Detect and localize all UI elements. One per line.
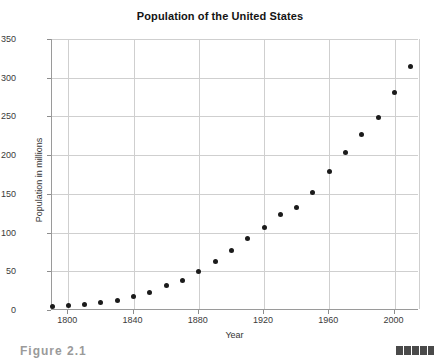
x-tick-mark-1960 (328, 310, 329, 314)
gridline-x-1800 (68, 39, 69, 309)
x-tick-mark-1880 (198, 310, 199, 314)
plot-area (51, 39, 418, 310)
y-tick-mark-350 (47, 39, 51, 40)
data-point (327, 169, 332, 174)
data-point (278, 212, 283, 217)
y-tick-label-200: 200 (1, 151, 16, 160)
data-point (294, 205, 299, 210)
gridline-y-50 (52, 271, 418, 272)
data-point (392, 90, 397, 95)
plot-top-edge (52, 39, 418, 40)
y-tick-mark-50 (47, 271, 51, 272)
gridline-y-300 (52, 78, 418, 79)
gridline-y-200 (52, 155, 418, 156)
y-tick-label-0: 0 (11, 306, 16, 315)
x-tick-mark-1840 (133, 310, 134, 314)
plot-right-edge (419, 39, 420, 309)
population-chart-figure: Population of the United States 05010015… (0, 0, 440, 360)
y-tick-mark-0 (47, 310, 51, 311)
gridline-x-1840 (134, 39, 135, 309)
data-point (229, 248, 234, 253)
y-tick-label-150: 150 (1, 189, 16, 198)
data-point (66, 303, 71, 308)
gridline-x-2000 (395, 39, 396, 309)
x-tick-label-1840: 1840 (123, 316, 143, 325)
x-tick-label-1880: 1880 (188, 316, 208, 325)
x-tick-mark-2000 (394, 310, 395, 314)
data-point (131, 294, 136, 299)
y-tick-label-100: 100 (1, 228, 16, 237)
x-tick-label-1960: 1960 (318, 316, 338, 325)
data-point (196, 269, 201, 274)
data-point (147, 290, 152, 295)
gridline-y-250 (52, 116, 418, 117)
y-tick-mark-300 (47, 78, 51, 79)
data-point (98, 300, 103, 305)
figure-caption: Figure 2.1 (20, 344, 87, 358)
y-axis-title: Population in millions (34, 95, 44, 265)
x-axis-title: Year (51, 330, 418, 340)
y-tick-label-50: 50 (6, 267, 16, 276)
x-tick-mark-1920 (263, 310, 264, 314)
data-point (115, 298, 120, 303)
data-point (213, 259, 218, 264)
y-tick-label-300: 300 (1, 73, 16, 82)
gridline-x-1920 (264, 39, 265, 309)
y-tick-mark-150 (47, 194, 51, 195)
data-point (164, 283, 169, 288)
data-point (359, 132, 364, 137)
data-point (82, 302, 87, 307)
chart-title: Population of the United States (0, 10, 440, 22)
y-tick-mark-250 (47, 116, 51, 117)
data-point (50, 304, 55, 309)
gridline-y-150 (52, 194, 418, 195)
x-tick-mark-1800 (67, 310, 68, 314)
data-point (262, 225, 267, 230)
data-point (408, 64, 413, 69)
page-edge-marker (396, 346, 434, 355)
y-tick-label-350: 350 (1, 35, 16, 44)
x-tick-label-1800: 1800 (57, 316, 77, 325)
y-tick-mark-100 (47, 233, 51, 234)
data-point (245, 236, 250, 241)
data-point (376, 115, 381, 120)
gridline-x-1960 (329, 39, 330, 309)
gridline-y-100 (52, 233, 418, 234)
y-tick-label-250: 250 (1, 112, 16, 121)
x-tick-label-2000: 2000 (384, 316, 404, 325)
data-point (180, 278, 185, 283)
x-tick-label-1920: 1920 (253, 316, 273, 325)
y-tick-mark-200 (47, 155, 51, 156)
